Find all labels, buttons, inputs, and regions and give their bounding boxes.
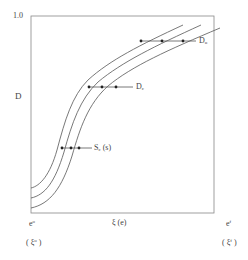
dc-marker [101, 86, 104, 89]
dc-marker [115, 86, 118, 89]
x-axis-right-sublabel: ( ξf ) [222, 238, 237, 247]
x-right-sub-tail: ) [232, 238, 237, 247]
x-axis-label: ξ (e) [112, 219, 126, 227]
du-label-sub: u [205, 40, 208, 45]
x-axis-left-label: eo [29, 219, 35, 228]
du-marker [161, 40, 164, 43]
du-label: Du [199, 37, 207, 45]
du-marker [140, 40, 143, 43]
dc-marker [88, 86, 91, 89]
du-marker [182, 40, 185, 43]
plot-frame [31, 16, 214, 213]
sc-marker [78, 147, 81, 150]
sc-marker [70, 147, 73, 150]
x-left-sub-tail: ) [37, 238, 42, 247]
dc-label-sub: c [142, 86, 144, 91]
y-axis-top-label: 1.0 [13, 12, 23, 20]
y-axis-label: D [15, 92, 22, 101]
dc-label: Dc [136, 83, 144, 91]
sc-label: Sc (s) [94, 144, 111, 152]
curve-right [31, 28, 220, 208]
curve-left [31, 25, 183, 188]
sc-label-tail: (s) [101, 143, 111, 152]
sc-marker [61, 147, 64, 150]
x-axis-right-label: ef [226, 219, 231, 228]
x-left-sup: o [33, 219, 36, 224]
x-left-sub-base: ( ξ [26, 238, 34, 247]
x-right-sub-base: ( ξ [222, 238, 230, 247]
x-axis-left-sublabel: ( ξo ) [26, 238, 41, 247]
x-right-sup: f [230, 219, 232, 224]
curve-middle [31, 25, 201, 198]
